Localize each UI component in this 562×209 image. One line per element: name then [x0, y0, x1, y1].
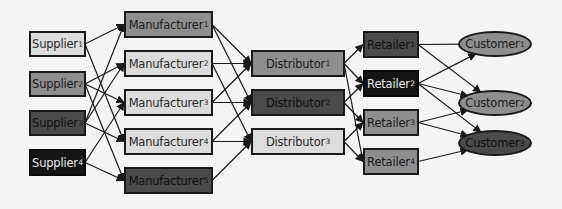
- node-label: Retailer: [367, 77, 410, 91]
- node-c1: Customer1: [458, 31, 532, 57]
- node-m1: Manufacturer1: [124, 11, 213, 38]
- node-subscript: 3: [204, 98, 209, 107]
- node-label: Distributor: [266, 57, 325, 71]
- node-label: Customer: [465, 37, 519, 51]
- node-label: Manufacturer: [129, 57, 204, 71]
- node-label: Manufacturer: [129, 96, 204, 110]
- node-r2: Retailer2: [363, 70, 419, 97]
- node-subscript: 2: [410, 79, 415, 88]
- node-c3: Customer3: [458, 130, 532, 156]
- node-s2: Supplier2: [29, 71, 86, 97]
- node-label: Distributor: [266, 135, 325, 149]
- edge-r4-c3: [418, 150, 468, 162]
- node-d1: Distributor1: [251, 50, 345, 77]
- node-subscript: 4: [204, 137, 209, 146]
- node-subscript: 3: [410, 118, 415, 127]
- edge-m1-d1: [212, 25, 251, 64]
- node-subscript: 1: [204, 20, 209, 29]
- node-subscript: 4: [78, 158, 83, 167]
- node-s3: Supplier3: [29, 110, 86, 136]
- node-r1: Retailer1: [363, 31, 419, 58]
- edge-s1-m1: [85, 25, 124, 45]
- edge-s4-m3: [85, 103, 124, 163]
- node-subscript: 2: [520, 99, 525, 108]
- node-subscript: 1: [326, 59, 331, 68]
- edge-r2-c1: [418, 54, 476, 84]
- node-d3: Distributor3: [251, 128, 345, 155]
- edge-m4-d2: [212, 103, 251, 142]
- edge-d1-r1: [344, 45, 363, 64]
- node-label: Retailer: [367, 155, 410, 169]
- node-label: Manufacturer: [129, 18, 204, 32]
- node-label: Supplier: [32, 77, 78, 91]
- node-subscript: 5: [204, 176, 209, 185]
- node-d2: Distributor2: [251, 89, 345, 116]
- edge-m3-d1: [212, 64, 251, 103]
- node-s4: Supplier4: [29, 149, 86, 176]
- node-m3: Manufacturer3: [124, 89, 213, 116]
- node-s1: Supplier1: [29, 31, 86, 57]
- node-subscript: 4: [410, 157, 415, 166]
- node-label: Retailer: [367, 38, 410, 52]
- node-r4: Retailer4: [363, 148, 419, 175]
- node-c2: Customer2: [458, 90, 532, 116]
- node-label: Customer: [465, 96, 519, 110]
- node-m4: Manufacturer4: [124, 128, 213, 155]
- edge-d2-r3: [344, 103, 363, 123]
- node-m2: Manufacturer2: [124, 50, 213, 77]
- node-label: Supplier: [32, 116, 78, 130]
- node-m5: Manufacturer5: [124, 167, 213, 194]
- node-label: Manufacturer: [129, 174, 204, 188]
- node-subscript: 1: [410, 40, 415, 49]
- node-label: Supplier: [32, 156, 78, 170]
- node-subscript: 1: [78, 40, 83, 49]
- node-label: Retailer: [367, 116, 410, 130]
- node-subscript: 2: [78, 80, 83, 89]
- node-subscript: 3: [326, 137, 331, 146]
- edge-r3-c3: [418, 123, 468, 136]
- node-subscript: 2: [326, 98, 331, 107]
- edge-d3-r3: [344, 123, 363, 142]
- node-label: Distributor: [266, 96, 325, 110]
- edge-s3-m1: [85, 25, 124, 124]
- node-subscript: 3: [520, 139, 525, 148]
- node-label: Manufacturer: [129, 135, 204, 149]
- node-subscript: 3: [78, 119, 83, 128]
- node-label: Supplier: [32, 37, 78, 51]
- edge-d2-r2: [344, 84, 363, 103]
- node-label: Customer: [465, 136, 519, 150]
- node-subscript: 2: [204, 59, 209, 68]
- supply-chain-diagram: Supplier1Supplier2Supplier3Supplier4Manu…: [0, 0, 562, 209]
- node-r3: Retailer3: [363, 109, 419, 136]
- node-subscript: 1: [520, 40, 525, 49]
- edge-m5-d3: [212, 142, 251, 181]
